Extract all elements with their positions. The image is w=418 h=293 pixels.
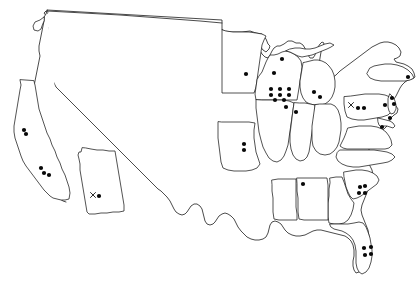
marker-dot [388,116,392,120]
marker-dot [284,105,288,109]
marker-dot [301,182,305,186]
marker-dot [312,90,316,94]
marker-dot [357,191,361,195]
marker-dot [244,72,248,76]
state-virginia [340,126,392,149]
marker-dot [390,96,394,100]
marker-dot [294,110,298,114]
marker-dot [363,253,367,257]
state-arizona [78,148,124,214]
marker-dot [269,87,273,91]
marker-dot [280,57,284,61]
marker-dot [287,87,291,91]
marker-dot [97,194,101,198]
state-mississippi [272,179,297,220]
marker-dot [362,246,366,250]
marker-dot [358,185,362,189]
marker-dot [392,102,396,106]
map-canvas [0,0,418,293]
marker-dot [278,93,282,97]
state-south-carolina [344,170,379,199]
marker-dot [287,93,291,97]
marker-dot [383,103,387,107]
marker-dot [362,106,366,110]
marker-dot [24,132,28,136]
marker-dot [363,191,367,195]
state-missouri [218,122,260,171]
state-michigan-lower [300,60,335,105]
marker-dot [22,128,26,132]
marker-dot [318,95,322,99]
marker-dot [242,148,246,152]
marker-dot [380,125,384,129]
marker-dot [282,98,286,102]
marker-dot [269,93,273,97]
marker-dot [42,171,46,175]
state-ohio [312,104,341,155]
marker-dot [242,142,246,146]
marker-dot [369,245,373,249]
marker-dot [273,98,277,102]
state-north-carolina [336,150,395,167]
marker-dot [369,252,373,256]
marker-dot [278,87,282,91]
marker-dot [363,184,367,188]
marker-dot [47,173,51,177]
marker-dot [356,106,360,110]
us-point-map [0,0,418,293]
marker-dot [39,166,43,170]
marker-dot [406,75,410,79]
marker-dot [272,71,276,75]
